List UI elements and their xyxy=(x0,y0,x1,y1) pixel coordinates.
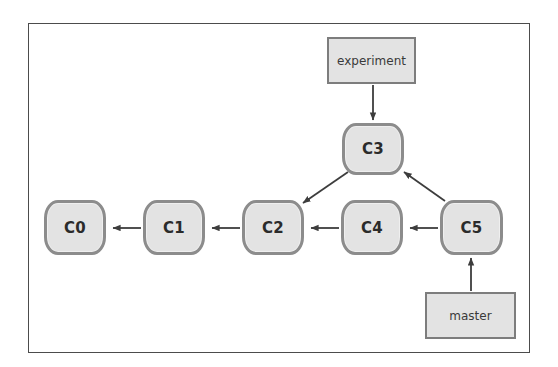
commit-label: C4 xyxy=(361,219,383,237)
commit-node-c4[interactable]: C4 xyxy=(341,200,403,255)
branch-name: experiment xyxy=(337,54,406,68)
commit-label: C5 xyxy=(461,219,483,237)
commit-node-c5[interactable]: C5 xyxy=(440,200,503,255)
commit-node-c0[interactable]: C0 xyxy=(44,200,106,255)
diagram-canvas: C0 C1 C2 C3 C4 C5 experiment master xyxy=(0,0,558,367)
diagram-figure: C0 C1 C2 C3 C4 C5 experiment master xyxy=(0,0,558,367)
commit-label: C3 xyxy=(362,140,384,158)
commit-node-c2[interactable]: C2 xyxy=(242,200,304,255)
commit-node-c1[interactable]: C1 xyxy=(143,200,205,255)
branch-name: master xyxy=(449,309,491,323)
edge-c5-to-c3 xyxy=(404,172,445,201)
edge-c3-to-c2 xyxy=(303,172,348,203)
commit-label: C0 xyxy=(64,219,86,237)
commit-label: C2 xyxy=(262,219,284,237)
commit-node-c3[interactable]: C3 xyxy=(342,123,404,175)
commit-label: C1 xyxy=(163,219,185,237)
branch-label-master[interactable]: master xyxy=(425,292,516,339)
branch-label-experiment[interactable]: experiment xyxy=(327,37,416,84)
